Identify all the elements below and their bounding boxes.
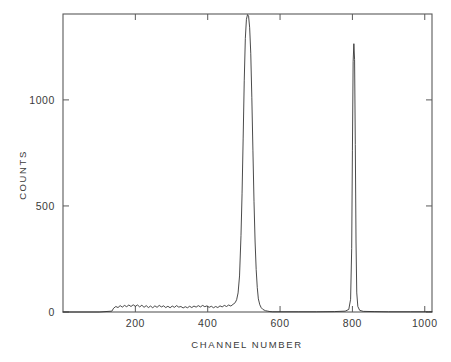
y-tick-label: 1000	[29, 94, 55, 106]
y-tick-label: 0	[49, 306, 55, 318]
x-tick-label: 400	[198, 317, 217, 329]
x-axis-title: CHANNEL NUMBER	[191, 339, 302, 350]
x-tick-label: 1000	[412, 317, 438, 329]
y-axis-title: COUNTS	[17, 150, 28, 200]
x-axis-tick-labels: 2004006008001000	[126, 317, 438, 329]
y-tick-label: 500	[36, 200, 55, 212]
spectrum-trace	[63, 15, 432, 312]
x-tick-label: 200	[126, 317, 145, 329]
plot-frame	[63, 14, 432, 312]
x-tick-label: 800	[343, 317, 362, 329]
y-axis-tick-labels: 05001000	[29, 94, 55, 318]
tick-marks	[63, 14, 432, 312]
spectrum-figure: 2004006008001000 05001000 CHANNEL NUMBER…	[0, 0, 451, 362]
x-tick-label: 600	[270, 317, 289, 329]
spectrum-chart-svg: 2004006008001000 05001000 CHANNEL NUMBER…	[0, 0, 451, 362]
